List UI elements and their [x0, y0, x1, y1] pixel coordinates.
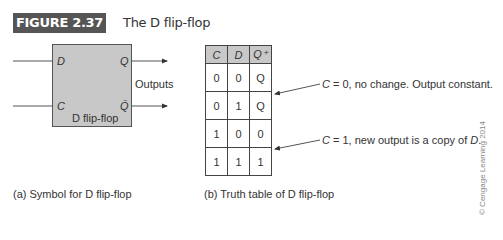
output-q-label: Q [120, 55, 129, 67]
table-cell: 1 [250, 148, 272, 176]
table-header-row: C D Q⁺ [206, 46, 272, 64]
header-c: C [206, 46, 228, 64]
output-qbar-label: Q̄ [120, 100, 129, 112]
table-row: 1 1 1 [206, 148, 272, 176]
caption-truth-table: (b) Truth table of D flip-flop [204, 188, 334, 200]
header-qplus: Q⁺ [250, 46, 272, 64]
table-cell: 0 [206, 92, 228, 120]
outputs-label: Outputs [135, 78, 174, 90]
table-cell: 0 [206, 64, 228, 92]
table-cell: 1 [228, 148, 250, 176]
table-cell: 1 [206, 148, 228, 176]
table-cell: 1 [228, 92, 250, 120]
header-d: D [228, 46, 250, 64]
caption-symbol: (a) Symbol for D flip-flop [13, 188, 132, 200]
truth-table: C D Q⁺ 0 0 Q 0 1 Q 1 0 0 1 1 1 [205, 45, 272, 176]
table-row: 0 0 Q [206, 64, 272, 92]
flip-flop-name: D flip-flop [72, 112, 118, 124]
input-c-label: C [57, 100, 65, 112]
copyright-notice: © Cengage Learning 2014 [478, 121, 487, 215]
table-cell: Q [250, 92, 272, 120]
input-d-label: D [57, 55, 65, 67]
table-cell: 0 [228, 64, 250, 92]
table-cell: 0 [228, 120, 250, 148]
annotation-c0: C = 0, no change. Output constant. [322, 78, 493, 90]
table-cell: Q [250, 64, 272, 92]
table-row: 1 0 0 [206, 120, 272, 148]
annotation-c1: C = 1, new output is a copy of D. [322, 134, 481, 146]
table-cell: 0 [250, 120, 272, 148]
table-row: 0 1 Q [206, 92, 272, 120]
table-cell: 1 [206, 120, 228, 148]
